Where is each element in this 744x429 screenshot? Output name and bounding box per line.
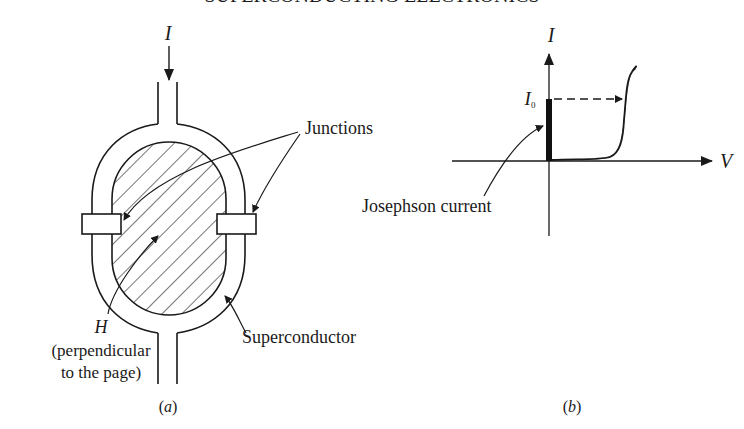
top-lead [158,82,177,124]
iv-curve-stroke [552,68,634,160]
caption-b: (b) [563,398,582,416]
current-label-a: I [164,22,173,44]
figure: SUPERCONDUCTING ELECTRONICS I Junctions [0,0,744,429]
x-axis-label: V [720,150,735,172]
critical-current-label: I0 [524,88,536,110]
josephson-current-bar [546,99,552,161]
bottom-lead [158,333,177,384]
josephson-label: Josephson current [362,196,491,216]
superconductor-label: Superconductor [242,327,356,347]
y-axis-label: I [547,24,556,46]
field-note-line2: to the page) [61,363,141,382]
caption-a: (a) [159,398,178,416]
left-junction [82,214,121,234]
panel-a: I Junctions H (perpendicular to the page… [51,22,373,416]
junction-arrow-right-icon [253,134,300,212]
hatched-region [112,142,226,315]
panel-b: I V I0 Josephson current (b) [362,24,735,416]
figure-canvas: SUPERCONDUCTING ELECTRONICS I Junctions [0,0,744,429]
iv-curve [552,66,636,160]
junctions-label: Junctions [305,118,373,138]
running-header: SUPERCONDUCTING ELECTRONICS [204,0,539,6]
field-label: H [94,317,109,337]
field-note-line1: (perpendicular [51,341,150,360]
right-junction [217,214,256,234]
